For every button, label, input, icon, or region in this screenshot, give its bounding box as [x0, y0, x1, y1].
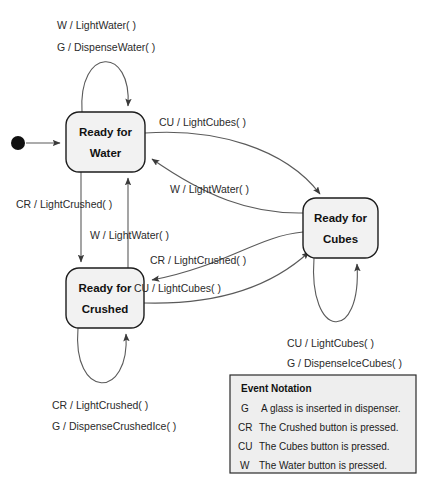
- state-diagram-svg: Ready for Water Ready for Crushed Ready …: [0, 0, 430, 484]
- state-label-cubes-line1: Ready for: [314, 212, 368, 224]
- state-ready-for-crushed[interactable]: Ready for Crushed: [66, 268, 144, 328]
- initial-state-dot: [11, 136, 25, 150]
- state-box-water[interactable]: [66, 112, 145, 172]
- state-label-crushed-line2: Crushed: [82, 303, 129, 315]
- edge-label-cubes-to-crushed: CR / LightCrushed( ): [150, 254, 246, 266]
- edge-water-self-loop: [82, 62, 128, 112]
- edge-label-crushed-self-2: G / DispenseCrushedIce( ): [52, 420, 176, 432]
- edge-label-crushed-to-cubes: CU / LightCubes( ): [134, 282, 221, 294]
- edge-label-cubes-self-1: CU / LightCubes( ): [287, 337, 374, 349]
- state-box-cubes[interactable]: [303, 198, 378, 258]
- legend-desc-cu: The Cubes button is pressed.: [259, 441, 390, 452]
- edge-cubes-self-loop: [314, 258, 358, 322]
- edge-label-water-self-2: G / DispenseWater( ): [57, 41, 155, 53]
- edge-label-crushed-self-1: CR / LightCrushed( ): [52, 399, 148, 411]
- edge-label-water-to-crushed: CR / LightCrushed( ): [16, 198, 112, 210]
- legend-key-w: W: [240, 460, 250, 471]
- legend-key-cr: CR: [238, 422, 252, 433]
- state-ready-for-cubes[interactable]: Ready for Cubes: [303, 198, 378, 258]
- state-label-water-line2: Water: [90, 147, 122, 159]
- edge-label-cubes-to-water: W / LightWater( ): [170, 183, 249, 195]
- legend-row: G A glass is inserted in dispenser.: [241, 403, 401, 414]
- legend-key-g: G: [241, 403, 249, 414]
- legend-row: CU The Cubes button is pressed.: [238, 441, 390, 452]
- state-diagram-canvas: Ready for Water Ready for Crushed Ready …: [0, 0, 430, 484]
- state-label-crushed-line1: Ready for: [78, 282, 132, 294]
- state-label-water-line1: Ready for: [79, 126, 133, 138]
- legend: Event Notation G A glass is inserted in …: [230, 375, 416, 473]
- legend-key-cu: CU: [238, 441, 252, 452]
- edge-label-crushed-to-water: W / LightWater( ): [90, 229, 169, 241]
- edge-label-cubes-self-2: G / DispenseIceCubes( ): [287, 357, 402, 369]
- legend-desc-w: The Water button is pressed.: [259, 460, 387, 471]
- legend-row: CR The Crushed button is pressed.: [238, 422, 399, 433]
- state-label-cubes-line2: Cubes: [323, 233, 358, 245]
- legend-desc-g: A glass is inserted in dispenser.: [261, 403, 401, 414]
- legend-title: Event Notation: [241, 383, 312, 394]
- state-ready-for-water[interactable]: Ready for Water: [66, 112, 145, 172]
- edge-label-water-self-1: W / LightWater( ): [57, 19, 136, 31]
- legend-desc-cr: The Crushed button is pressed.: [259, 422, 399, 433]
- edge-label-water-to-cubes: CU / LightCubes( ): [159, 116, 246, 128]
- state-box-crushed[interactable]: [66, 268, 144, 328]
- legend-row: W The Water button is pressed.: [240, 460, 387, 471]
- edge-crushed-self-loop: [78, 328, 127, 383]
